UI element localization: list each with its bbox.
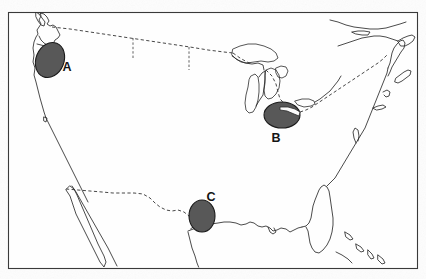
marker-b-ellipse[interactable] <box>264 102 300 128</box>
marker-a-label: A <box>62 60 71 74</box>
map-canvas: A B C <box>0 0 426 279</box>
marker-c-label: C <box>206 190 215 204</box>
marker-c-ellipse[interactable] <box>189 200 215 232</box>
us-outline-map-figure: A B C <box>0 0 426 279</box>
marker-b-label: B <box>271 131 280 145</box>
